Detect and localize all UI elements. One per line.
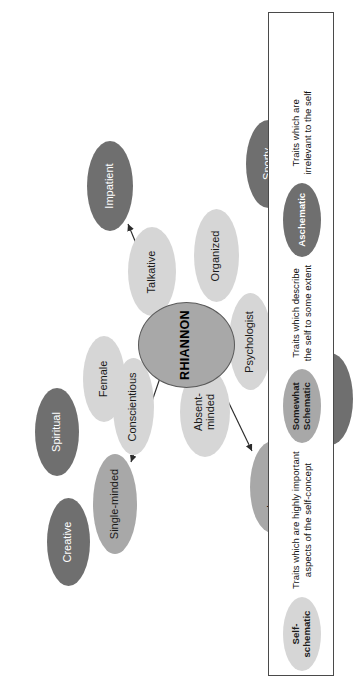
legend-entry-self-schematic: Self- schematicTraits which are highly i… — [283, 443, 321, 671]
legend-entry-aschematic: AschematicTraits which are irrelevant to… — [283, 83, 321, 257]
legend-entry-somewhat-schematic: Somewhat SchematicTraits which describe … — [283, 257, 321, 444]
legend-chip-somewhat-schematic: Somewhat Schematic — [283, 369, 321, 443]
trait-node-psychologist[interactable]: Psychologist — [229, 294, 272, 391]
trait-node-single-minded[interactable]: Single-minded — [93, 454, 137, 554]
legend-chip-self-schematic: Self- schematic — [283, 597, 321, 671]
legend-chip-aschematic: Aschematic — [283, 183, 321, 257]
legend: Self- schematicTraits which are highly i… — [268, 12, 334, 676]
trait-node-impatient[interactable]: Impatient — [87, 141, 133, 231]
legend-description-somewhat-schematic: Traits which describe the self to some e… — [290, 257, 315, 370]
trait-node-spiritual[interactable]: Spiritual — [35, 388, 79, 476]
central-node-rhiannon[interactable]: RHIANNON — [138, 302, 235, 388]
trait-node-female[interactable]: Female — [83, 336, 125, 422]
trait-node-talkative[interactable]: Talkative — [128, 228, 176, 317]
trait-node-organized[interactable]: Organized — [194, 210, 239, 303]
legend-description-aschematic: Traits which are irrelevant to the self — [290, 83, 315, 183]
legend-content: Self- schematicTraits which are highly i… — [269, 13, 335, 677]
trait-node-creative[interactable]: Creative — [47, 498, 90, 586]
legend-description-self-schematic: Traits which are highly important aspect… — [290, 443, 315, 597]
